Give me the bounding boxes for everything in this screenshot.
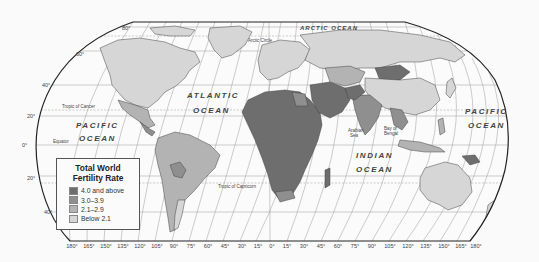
swatch-low xyxy=(69,205,78,213)
lon-label: 15° xyxy=(254,243,262,249)
label-pacific-east-1: PACIFIC xyxy=(465,107,508,116)
swatch-high xyxy=(69,187,78,195)
lon-label: 150° xyxy=(438,243,450,249)
longitude-labels: 180° 165° 150° 135° 120° 105° 90° 75° 60… xyxy=(62,243,482,253)
lon-label: 60° xyxy=(334,243,342,249)
legend-label-below: Below 2.1 xyxy=(81,215,111,222)
lon-label: 120° xyxy=(134,243,146,249)
label-atlantic-2: OCEAN xyxy=(193,106,230,115)
label-lat-60: 60° xyxy=(76,51,84,57)
lon-label: 45° xyxy=(221,243,229,249)
label-tropic-cancer: Tropic of Cancer xyxy=(62,104,96,109)
lon-label: 60° xyxy=(204,243,212,249)
label-lat-80: 80° xyxy=(122,25,130,31)
lon-label: 30° xyxy=(238,243,246,249)
label-tropic-capricorn: Tropic of Capricorn xyxy=(218,184,257,189)
legend-items: 4.0 and above 3.0–3.9 2.1–2.9 Below 2.1 xyxy=(69,186,139,224)
label-arctic-circle: Arctic Circle xyxy=(248,38,272,43)
label-equator: Equator xyxy=(53,139,69,144)
lon-label: 105° xyxy=(151,243,163,249)
swatch-below xyxy=(69,215,78,223)
swatch-mid xyxy=(69,196,78,204)
legend-title-line2: Fertility Rate xyxy=(57,173,139,183)
lon-label: 30° xyxy=(300,243,308,249)
lon-label: 135° xyxy=(420,243,432,249)
lon-label: 105° xyxy=(384,243,396,249)
lon-label: 165° xyxy=(455,243,467,249)
lon-label: 45° xyxy=(317,243,325,249)
lon-label: 0° xyxy=(269,243,274,249)
label-indian-2: OCEAN xyxy=(356,165,393,174)
region-madagascar xyxy=(325,168,330,188)
legend-item-below: Below 2.1 xyxy=(69,214,139,223)
lon-label: 90° xyxy=(170,243,178,249)
lon-label: 15° xyxy=(283,243,291,249)
legend-title-line1: Total World xyxy=(57,163,139,173)
label-lat-20s: 20° xyxy=(27,175,35,181)
label-atlantic-1: ATLANTIC xyxy=(186,91,239,100)
legend-label-high: 4.0 and above xyxy=(81,187,124,194)
lon-label: 150° xyxy=(100,243,112,249)
lon-label: 180° xyxy=(470,243,482,249)
legend-item-mid: 3.0–3.9 xyxy=(69,195,139,204)
lon-label: 120° xyxy=(402,243,414,249)
lon-label: 75° xyxy=(351,243,359,249)
legend-title: Total World Fertility Rate xyxy=(57,163,139,183)
label-bay-of-bengal-2: Bengal xyxy=(384,131,398,136)
legend-label-low: 2.1–2.9 xyxy=(81,206,104,213)
lon-label: 180° xyxy=(66,243,78,249)
label-lat-40n: 40° xyxy=(42,82,50,88)
label-pacific-east-2: OCEAN xyxy=(468,121,505,130)
lon-label: 135° xyxy=(117,243,129,249)
label-lat-20n: 20° xyxy=(27,113,35,119)
legend: Total World Fertility Rate 4.0 and above… xyxy=(56,158,140,230)
lon-label: 90° xyxy=(368,243,376,249)
label-indian-1: INDIAN xyxy=(356,151,393,160)
lon-label: 165° xyxy=(83,243,95,249)
label-pacific-west-1: PACIFIC xyxy=(76,121,119,130)
legend-label-mid: 3.0–3.9 xyxy=(81,197,104,204)
label-lat-40s: 40° xyxy=(44,209,52,215)
label-arabian-sea-2: Sea xyxy=(350,133,359,138)
legend-item-low: 2.1–2.9 xyxy=(69,205,139,214)
label-lat-0: 0° xyxy=(22,142,27,148)
legend-item-high: 4.0 and above xyxy=(69,186,139,195)
label-arctic: ARCTIC OCEAN xyxy=(299,25,358,31)
lon-label: 75° xyxy=(187,243,195,249)
label-pacific-west-2: OCEAN xyxy=(79,134,116,143)
